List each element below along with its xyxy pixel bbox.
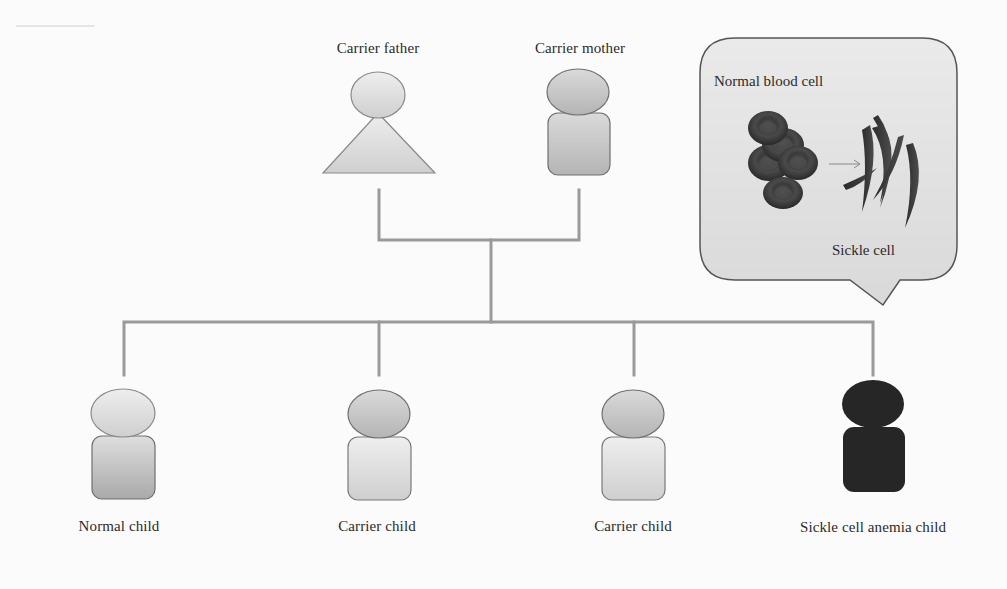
father-connector bbox=[379, 190, 579, 240]
pedigree-diagram bbox=[0, 0, 1007, 589]
carrier-child-1-label: Carrier child bbox=[338, 518, 416, 535]
sickle-cell-label: Sickle cell bbox=[832, 242, 895, 259]
child4-body bbox=[843, 427, 905, 492]
normal-child-label: Normal child bbox=[79, 518, 160, 535]
normal-blood-cell-label: Normal blood cell bbox=[714, 73, 823, 90]
sibship-line bbox=[124, 322, 873, 375]
child2-head bbox=[348, 390, 410, 438]
mother-head bbox=[547, 69, 609, 115]
carrier-mother-label: Carrier mother bbox=[535, 40, 625, 57]
carrier-father-figure bbox=[323, 72, 435, 173]
child4-head bbox=[842, 380, 904, 428]
mother-body bbox=[548, 113, 610, 175]
sickle-cell-anemia-child-label: Sickle cell anemia child bbox=[798, 515, 948, 540]
father-head bbox=[351, 72, 405, 118]
father-body bbox=[323, 113, 435, 173]
carrier-child-1-figure bbox=[348, 390, 411, 500]
carrier-mother-figure bbox=[547, 69, 610, 175]
child3-body bbox=[602, 437, 665, 500]
child1-head bbox=[91, 389, 155, 437]
child3-head bbox=[602, 390, 664, 438]
normal-child-figure bbox=[91, 389, 155, 499]
child1-body bbox=[92, 436, 155, 499]
carrier-father-label: Carrier father bbox=[337, 40, 420, 57]
carrier-child-2-label: Carrier child bbox=[594, 518, 672, 535]
child2-body bbox=[348, 437, 411, 500]
sickle-cell-child-figure bbox=[842, 380, 905, 492]
carrier-child-2-figure bbox=[602, 390, 665, 500]
